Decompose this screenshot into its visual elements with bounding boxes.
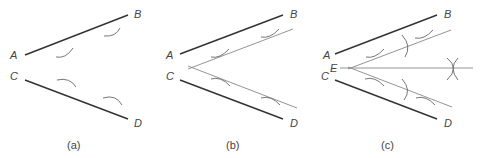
construction-arc xyxy=(402,35,408,57)
line-cd xyxy=(180,80,283,119)
parallel-line-upper xyxy=(188,29,293,69)
label-d: D xyxy=(134,117,142,129)
line-ab xyxy=(335,15,437,54)
label-a: A xyxy=(9,49,17,61)
line-ab xyxy=(180,15,283,54)
line-cd xyxy=(25,80,128,119)
parallel-line-lower xyxy=(348,67,452,107)
parallel-line-upper xyxy=(348,30,451,69)
panel-b: A C B D (b) xyxy=(165,8,298,151)
construction-arc xyxy=(261,97,280,105)
construction-arc xyxy=(415,30,433,38)
label-a: A xyxy=(322,49,330,61)
construction-arc xyxy=(211,78,230,86)
caption-b: (b) xyxy=(226,139,239,151)
label-a: A xyxy=(165,49,173,61)
construction-arc xyxy=(56,48,73,57)
construction-arc xyxy=(261,29,279,37)
label-c: C xyxy=(321,70,329,82)
label-c: C xyxy=(166,70,174,82)
label-d: D xyxy=(444,117,452,129)
label-b: B xyxy=(290,8,297,20)
construction-arc xyxy=(104,28,120,36)
label-d: D xyxy=(290,117,298,129)
label-e: E xyxy=(330,62,338,74)
construction-arc xyxy=(211,49,229,57)
construction-arc xyxy=(103,97,122,105)
line-cd xyxy=(335,80,437,119)
label-b: B xyxy=(444,8,451,20)
caption-a: (a) xyxy=(67,139,80,151)
panel-a: A C B D (a) xyxy=(9,8,142,151)
construction-arc xyxy=(447,58,454,80)
caption-c: (c) xyxy=(381,139,394,151)
construction-arc xyxy=(57,79,76,87)
panel-c: A C E B D (c) xyxy=(321,8,473,151)
construction-arc xyxy=(416,97,435,105)
label-c: C xyxy=(10,70,18,82)
label-b: B xyxy=(134,8,141,20)
parallel-line-lower xyxy=(188,66,297,108)
angle-bisector-construction-diagram: A C B D (a) A C B D (b) A C xyxy=(0,0,487,158)
